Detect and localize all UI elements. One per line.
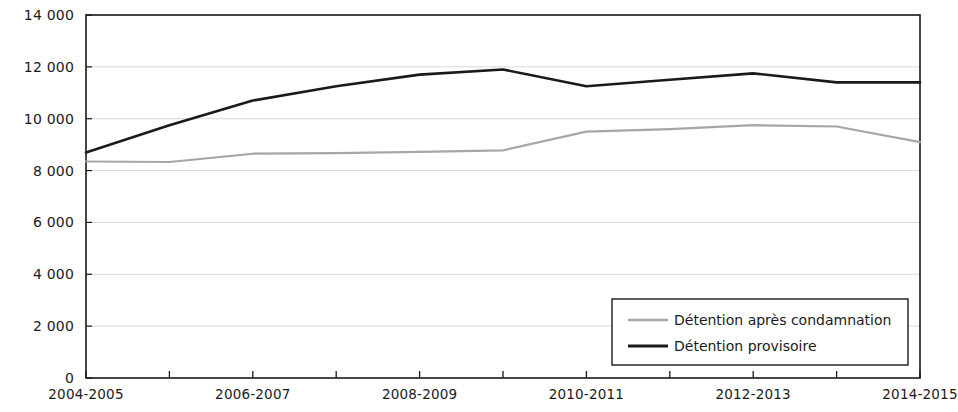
legend-label-1: Détention après condamnation: [674, 312, 891, 328]
gridlines: [86, 15, 920, 326]
legend-box: [612, 299, 908, 365]
y-axis-tick-label: 6 000: [0, 214, 74, 230]
y-axis-tick-label: 0: [0, 370, 74, 386]
y-axis-tick-label: 12 000: [0, 59, 74, 75]
x-axis-tick-label: 2010-2011: [549, 386, 624, 402]
series-line-1: [86, 125, 920, 162]
y-axis-tick-label: 2 000: [0, 318, 74, 334]
chart-legend: Détention après condamnationDétention pr…: [612, 299, 908, 365]
x-axis-tick-label: 2008-2009: [382, 386, 457, 402]
legend-label-2: Détention provisoire: [674, 338, 817, 354]
x-axis-tick-label: 2004-2005: [48, 386, 123, 402]
x-axis-tick-label: 2006-2007: [215, 386, 290, 402]
data-series: [86, 69, 920, 162]
series-line-2: [86, 69, 920, 152]
y-axis-tick-label: 10 000: [0, 111, 74, 127]
x-axis-tick-label: 2012-2013: [715, 386, 790, 402]
x-axis-tick-label: 2014-2015: [882, 386, 957, 402]
y-axis-tick-label: 4 000: [0, 266, 74, 282]
y-axis-tick-label: 8 000: [0, 163, 74, 179]
y-axis-tick-label: 14 000: [0, 7, 74, 23]
